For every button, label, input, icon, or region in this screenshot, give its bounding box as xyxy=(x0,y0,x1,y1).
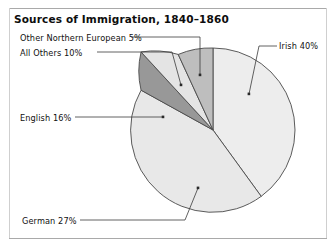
leader-dot-irish xyxy=(248,93,251,96)
pie-label-other-northern-european: Other Northern European 5% xyxy=(20,33,142,43)
pie-label-german: German 27% xyxy=(22,216,77,226)
leader-dot-english xyxy=(162,116,165,119)
bottom-rule xyxy=(9,238,327,239)
pie-chart-figure: Sources of Immigration, 1840–1860 xyxy=(0,0,336,249)
leader-dot-all-others xyxy=(180,84,183,87)
leader-dot-other-northern xyxy=(199,74,202,77)
pie-label-irish: Irish 40% xyxy=(279,41,318,51)
leader-dot-german xyxy=(197,187,200,190)
pie-label-english: English 16% xyxy=(20,113,71,123)
pie-label-all-others: All Others 10% xyxy=(20,48,82,58)
pie-slices xyxy=(131,48,295,212)
